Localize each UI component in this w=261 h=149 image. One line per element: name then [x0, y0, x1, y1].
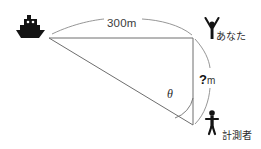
person-top-label: あなた — [216, 32, 246, 42]
person-bottom-label: 計測者 — [222, 131, 252, 141]
angle-label: θ — [167, 88, 173, 100]
distance-arc-left — [52, 19, 104, 34]
diagram-canvas: 300m ?m θ あなた 計測者 — [0, 0, 261, 149]
height-label: ?m — [199, 73, 215, 86]
boat-icon — [16, 15, 45, 38]
height-arc-upper — [195, 39, 210, 68]
distance-label: 300m — [107, 18, 137, 30]
height-unit: m — [207, 75, 215, 86]
person-standing-icon — [206, 110, 218, 134]
height-question-mark: ? — [199, 72, 207, 87]
distance-arc-right — [142, 19, 192, 35]
triangle-hypotenuse — [49, 38, 193, 125]
angle-theta-arc — [175, 98, 193, 118]
